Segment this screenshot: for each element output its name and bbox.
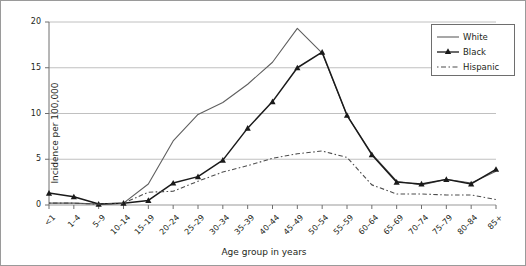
- y-tick-label: 0: [19, 200, 41, 209]
- series-line-white: [49, 28, 496, 204]
- y-axis-title: Incidence per 100,000: [50, 82, 60, 183]
- series-marker-black: [319, 49, 325, 55]
- series-marker-black: [493, 166, 499, 172]
- chart-legend: White Black Hispanic: [431, 24, 515, 76]
- legend-label-black: Black: [463, 46, 486, 58]
- legend-label-white: White: [463, 31, 488, 43]
- series-line-black: [49, 52, 496, 204]
- legend-item-white: White: [436, 29, 511, 44]
- y-axis-ticks: [45, 22, 49, 205]
- legend-key-white-icon: [436, 31, 460, 43]
- x-axis-ticks: [49, 205, 496, 209]
- legend-key-black-icon: [436, 46, 460, 58]
- gridlines: [49, 22, 496, 159]
- y-tick-label: 5: [19, 154, 41, 163]
- legend-item-black: Black: [436, 44, 511, 59]
- y-tick-label: 15: [19, 63, 41, 72]
- legend-key-hispanic-icon: [436, 61, 460, 73]
- legend-label-hispanic: Hispanic: [463, 61, 499, 73]
- legend-item-hispanic: Hispanic: [436, 59, 511, 74]
- y-tick-label: 10: [19, 109, 41, 118]
- y-tick-label: 20: [19, 17, 41, 26]
- chart-figure: Incidence per 100,000 Age group in years…: [0, 0, 526, 266]
